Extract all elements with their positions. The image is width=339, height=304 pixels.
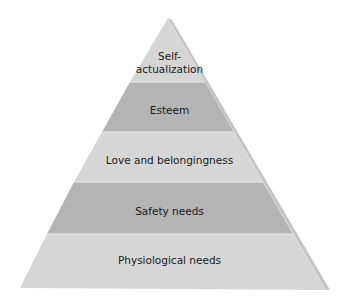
pyramid-diagram: Self- actualization Esteem Love and belo…	[0, 0, 339, 304]
label-esteem: Esteem	[0, 104, 339, 117]
label-self-line2: actualization	[0, 63, 339, 76]
label-physiological: Physiological needs	[0, 254, 339, 267]
label-self-line1: Self-	[0, 50, 339, 63]
label-love: Love and belongingness	[0, 154, 339, 167]
label-safety: Safety needs	[0, 205, 339, 218]
